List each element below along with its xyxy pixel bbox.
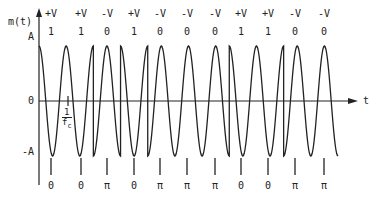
phase-label: π bbox=[292, 181, 298, 191]
x-axis-arrow-icon bbox=[348, 98, 358, 104]
phase-label: 0 bbox=[48, 181, 54, 191]
voltage-label: -V bbox=[318, 9, 330, 19]
bit-label: 0 bbox=[184, 27, 190, 37]
voltage-label: -V bbox=[101, 9, 113, 19]
phase-tick-marks bbox=[51, 158, 324, 175]
y-tick-a: A bbox=[28, 32, 34, 42]
phase-label: π bbox=[321, 181, 327, 191]
voltage-label: -V bbox=[209, 9, 221, 19]
y-tick-zero: 0 bbox=[28, 96, 34, 106]
voltage-label: +V bbox=[45, 9, 57, 19]
phase-label: 0 bbox=[131, 181, 137, 191]
voltage-label: -V bbox=[289, 9, 301, 19]
period-label: 1 fc bbox=[62, 108, 72, 131]
bit-label: 0 bbox=[292, 27, 298, 37]
phase-label: 0 bbox=[265, 181, 271, 191]
phase-label: π bbox=[184, 181, 190, 191]
voltage-label: +V bbox=[262, 9, 274, 19]
voltage-label: +V bbox=[235, 9, 247, 19]
phase-label: π bbox=[212, 181, 218, 191]
bit-label: 0 bbox=[212, 27, 218, 37]
period-denominator: fc bbox=[62, 118, 72, 131]
bit-label: 1 bbox=[131, 27, 137, 37]
phase-label: π bbox=[104, 181, 110, 191]
bit-label: 0 bbox=[321, 27, 327, 37]
voltage-label: -V bbox=[154, 9, 166, 19]
period-denominator-sub: c bbox=[67, 122, 71, 130]
bit-label: 0 bbox=[104, 27, 110, 37]
voltage-label: -V bbox=[181, 9, 193, 19]
bit-label: 1 bbox=[238, 27, 244, 37]
bit-label: 1 bbox=[265, 27, 271, 37]
y-axis-arrow-icon bbox=[36, 8, 42, 17]
phase-label: 0 bbox=[78, 181, 84, 191]
phase-label: π bbox=[157, 181, 163, 191]
voltage-label: +V bbox=[75, 9, 87, 19]
bit-label: 0 bbox=[157, 27, 163, 37]
voltage-label: +V bbox=[128, 9, 140, 19]
bit-label: 1 bbox=[78, 27, 84, 37]
x-axis-label: t bbox=[363, 96, 369, 106]
phase-label: 0 bbox=[238, 181, 244, 191]
y-tick-neg-a: -A bbox=[22, 147, 34, 157]
bpsk-diagram: m(t) A 0 -A t 1 fc +V10+V10-V0π+V10-V0π-… bbox=[0, 0, 377, 202]
bit-label: 1 bbox=[48, 27, 54, 37]
y-axis-label: m(t) bbox=[8, 17, 32, 27]
